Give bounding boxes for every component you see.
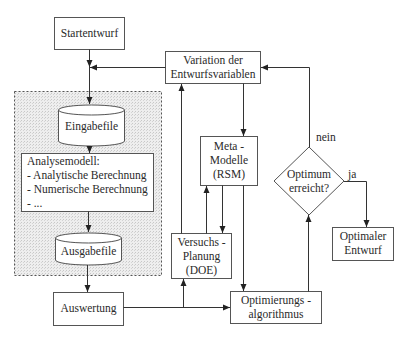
meta-models-label-line2: Modelle xyxy=(200,154,258,167)
optimal-label-line1: Optimaler xyxy=(332,230,394,243)
decision-diamond xyxy=(274,147,344,215)
start-label: Startentwurf xyxy=(54,27,125,40)
analysis-model-item: - Analytische Berechnung xyxy=(27,169,146,182)
analysis-model-item: - Numerische Berechnung xyxy=(27,183,148,196)
meta-models-label-line3: (RSM) xyxy=(200,168,258,181)
evaluation-label: Auswertung xyxy=(53,302,124,315)
edge-label-no: nein xyxy=(316,131,336,144)
optimizer-label-line2: algorithmus xyxy=(230,308,322,321)
output-file-label: Ausgabefile xyxy=(55,245,122,258)
doe-label-line2: Planung xyxy=(171,250,232,263)
edge-decision-yes-to-optimal xyxy=(344,182,367,228)
edge-label-yes: ja xyxy=(348,168,356,181)
input-file-label: Eingabefile xyxy=(58,120,125,133)
analysis-model-title: Analysemodell: xyxy=(27,155,100,168)
optimizer-label-line1: Optimierungs - xyxy=(230,294,322,307)
variation-label-line2: Entwurfsvariablen xyxy=(165,68,261,81)
doe-label-line3: (DOE) xyxy=(171,264,232,277)
optimal-label-line2: Entwurf xyxy=(332,244,394,257)
meta-models-label-line1: Meta - xyxy=(200,140,258,153)
edge-decision-no-to-variation xyxy=(261,68,310,148)
decision-label-line1: Optimum xyxy=(274,168,344,181)
variation-label-line1: Variation der xyxy=(165,54,261,67)
decision-label-line2: erreicht? xyxy=(274,182,344,195)
analysis-model-item: - ... xyxy=(27,197,42,210)
doe-label-line1: Versuchs - xyxy=(171,236,232,249)
